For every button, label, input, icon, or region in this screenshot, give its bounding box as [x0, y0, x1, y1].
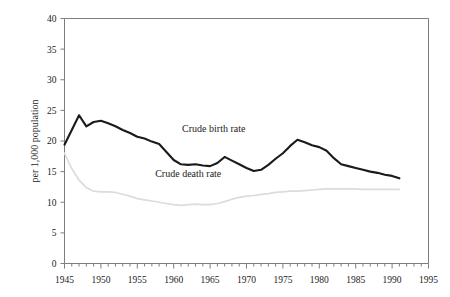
y-tick-label: 35 [47, 45, 57, 55]
y-axis-ticks [61, 19, 65, 264]
chart-figure: 1945195019551960196519701975198019851990… [0, 0, 450, 297]
y-axis-title: per 1,000 population [29, 99, 40, 182]
y-tick-label: 10 [47, 198, 57, 208]
x-tick-label: 1950 [91, 275, 110, 285]
x-tick-label: 1965 [201, 275, 220, 285]
x-axis-ticks [65, 264, 429, 269]
x-tick-label: 1955 [128, 275, 147, 285]
y-tick-label: 0 [52, 259, 57, 269]
y-axis-title-text: per 1,000 population [29, 99, 40, 182]
x-tick-label: 1945 [55, 275, 74, 285]
plot-frame [65, 19, 429, 264]
y-tick-label: 15 [47, 167, 57, 177]
y-tick-label: 20 [47, 136, 57, 146]
y-tick-label: 30 [47, 75, 57, 85]
y-tick-label: 5 [52, 228, 57, 238]
x-tick-label: 1960 [164, 275, 183, 285]
x-tick-label: 1985 [346, 275, 365, 285]
y-tick-label: 40 [47, 14, 57, 24]
x-tick-label: 1975 [273, 275, 292, 285]
series-annotations: Crude birth rateCrude death rate [155, 123, 246, 179]
annotation-crude-birth-rate: Crude birth rate [182, 123, 246, 134]
x-tick-label: 1970 [237, 275, 256, 285]
x-axis-tick-labels: 1945195019551960196519701975198019851990… [55, 275, 438, 285]
x-tick-label: 1995 [419, 275, 438, 285]
y-tick-label: 25 [47, 106, 57, 116]
y-axis-tick-labels: 0510152025303540 [47, 14, 57, 269]
x-tick-label: 1990 [383, 275, 402, 285]
line-chart: 1945195019551960196519701975198019851990… [0, 0, 450, 297]
annotation-crude-death-rate: Crude death rate [155, 168, 222, 179]
x-tick-label: 1980 [310, 275, 329, 285]
